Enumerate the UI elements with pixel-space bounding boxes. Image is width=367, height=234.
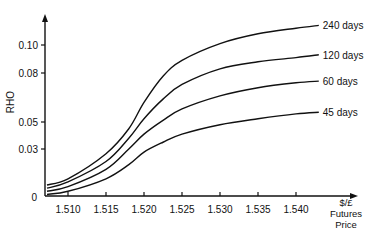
- y-tick-label: 0.03: [19, 144, 39, 155]
- y-axis-arrow-icon: [42, 14, 48, 22]
- series-line: [47, 25, 319, 185]
- x-axis-label-line: Futures: [330, 208, 362, 219]
- y-axis-label: RHO: [5, 91, 16, 113]
- x-tick-label: 1.520: [131, 204, 156, 215]
- y-ticks: 00.030.050.080.10: [19, 40, 45, 204]
- x-tick-label: 1.540: [283, 204, 308, 215]
- x-tick-label: 1.510: [55, 204, 80, 215]
- x-tick-label: 1.525: [169, 204, 194, 215]
- series-line: [47, 112, 319, 194]
- y-tick-label: 0.10: [19, 40, 39, 51]
- x-tick-label: 1.535: [245, 204, 270, 215]
- series-line: [47, 81, 319, 191]
- series-line: [47, 55, 319, 188]
- x-axis-label-line: Price: [335, 219, 357, 230]
- series-label: 60 days: [323, 76, 358, 87]
- y-tick-label: 0.08: [19, 68, 39, 79]
- x-tick-label: 1.515: [93, 204, 118, 215]
- x-tick-label: 1.530: [207, 204, 232, 215]
- series-label: 45 days: [323, 107, 358, 118]
- rho-chart: 00.030.050.080.10 1.5101.5151.5201.5251.…: [0, 0, 367, 234]
- series-label: 120 days: [323, 50, 364, 61]
- series-lines: 240 days120 days60 days45 days: [47, 20, 363, 194]
- series-label: 240 days: [323, 20, 364, 31]
- y-tick-label: 0.05: [19, 117, 39, 128]
- x-axis-label-line: $/£: [339, 197, 353, 208]
- x-axis-label: $/£FuturesPrice: [330, 197, 362, 230]
- y-tick-label: 0: [31, 192, 37, 203]
